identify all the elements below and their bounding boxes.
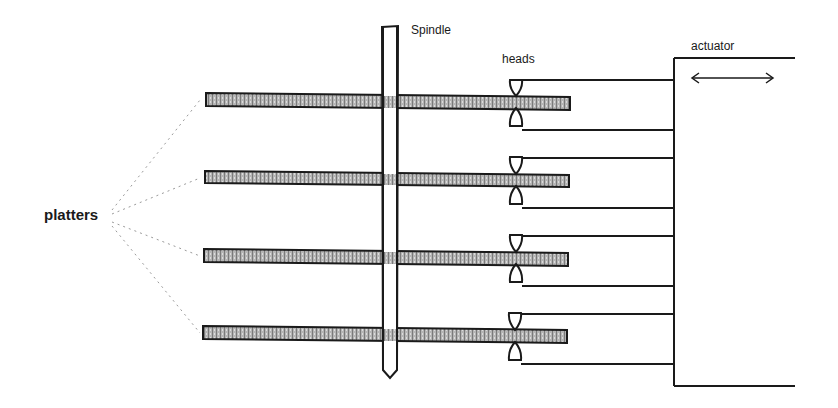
head-1-bottom: [510, 108, 522, 126]
platter-leader-lines: [112, 100, 200, 333]
head-4-bottom: [509, 342, 521, 360]
heads-label: heads: [502, 52, 535, 66]
head-2-top: [510, 157, 522, 174]
spindle-label: Spindle: [411, 23, 451, 37]
head-1-top: [510, 80, 522, 96]
actuator-label: actuator: [691, 39, 734, 53]
double-arrow-icon: [692, 73, 773, 83]
actuator: [674, 58, 795, 386]
heads-and-arms: [509, 80, 674, 364]
head-4-top: [509, 313, 521, 330]
spindle: [382, 26, 398, 378]
head-3-bottom: [510, 264, 522, 282]
hdd-diagram: [0, 0, 838, 408]
platters-label: platters: [44, 206, 98, 223]
head-2-bottom: [510, 186, 522, 204]
head-3-top: [510, 235, 522, 252]
